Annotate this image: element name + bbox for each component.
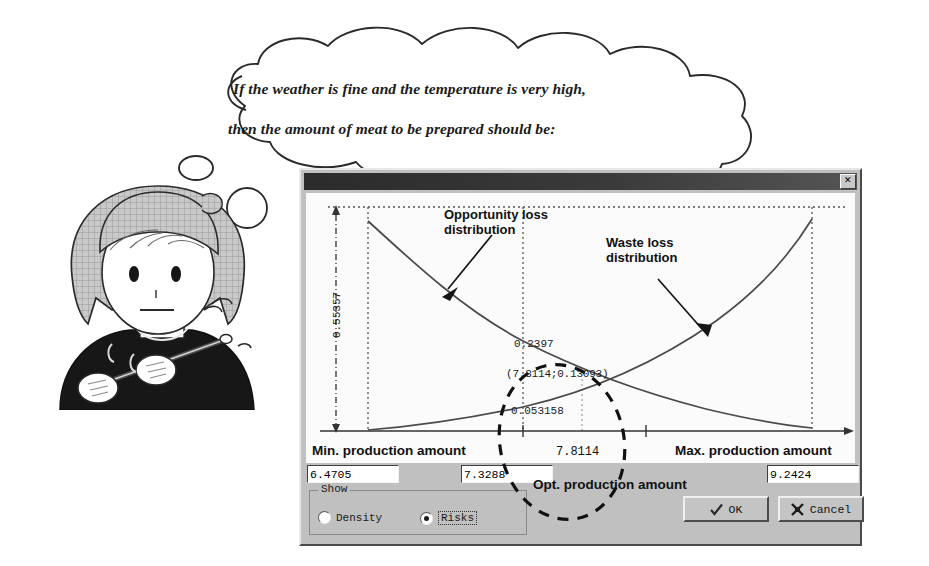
axis-label-min: Min. production amount (312, 443, 466, 458)
show-group-legend: Show (318, 483, 350, 495)
cancel-button[interactable]: Cancel (778, 496, 864, 522)
y-axis-max-label: 0.55357 (331, 280, 343, 350)
thought-bubble-line-2: then the amount of meat to be prepared s… (228, 120, 555, 138)
annotation-opportunity-line-1: Opportunity loss (444, 207, 548, 222)
optimum-callout-label: Opt. production amount (533, 477, 687, 492)
radio-option-risks[interactable]: Risks (420, 511, 477, 525)
character-illustration (52, 178, 282, 410)
show-radio-group: Show Density Risks (309, 490, 527, 535)
dialog-titlebar[interactable]: ✕ (304, 173, 857, 190)
ok-button[interactable]: OK (683, 496, 769, 522)
axis-label-max: Max. production amount (675, 443, 832, 458)
checkmark-icon (710, 503, 723, 516)
annotation-opportunity-line-2: distribution (444, 222, 516, 237)
cancel-button-label: Cancel (810, 503, 851, 516)
radio-risks-icon[interactable] (420, 512, 433, 525)
annotation-opportunity-loss: Opportunity loss distribution (444, 207, 548, 237)
max-production-input[interactable]: 9.2424 (767, 465, 859, 483)
radio-option-density[interactable]: Density (318, 511, 382, 524)
figure-root: If the weather is fine and the temperatu… (0, 0, 929, 566)
thought-bubble-line-1: If the weather is fine and the temperatu… (233, 80, 586, 98)
annotation-waste-line-2: distribution (606, 250, 678, 265)
chart-svg (306, 193, 855, 441)
radio-density-icon[interactable] (318, 511, 331, 524)
cancel-x-icon (791, 503, 804, 516)
radio-risks-label: Risks (438, 511, 477, 525)
radio-density-label: Density (336, 512, 382, 524)
min-production-input[interactable]: 6.4705 (307, 465, 399, 483)
axis-label-optimum-value: 7.8114 (556, 445, 599, 459)
ok-button-label: OK (729, 503, 743, 516)
close-icon[interactable]: ✕ (840, 174, 856, 189)
value-label-peak: 0.2397 (514, 338, 554, 350)
annotation-waste-line-1: Waste loss (606, 235, 673, 250)
value-label-low: 0.053158 (511, 405, 564, 417)
value-label-crossing-point: (7.8114;0.13093) (506, 368, 608, 380)
annotation-waste-loss: Waste loss distribution (606, 235, 678, 265)
chart-plot-area: Opportunity loss distribution Waste loss… (306, 193, 855, 441)
axis-caption-row: Min. production amount 7.8114 Max. produ… (306, 441, 855, 463)
